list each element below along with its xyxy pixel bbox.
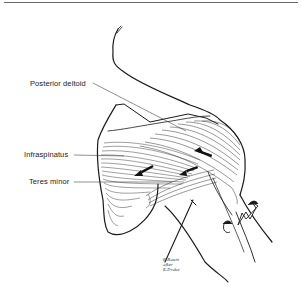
artist-signature: K.Baum after K.Drake (163, 257, 180, 272)
label-infraspinatus: Infraspinatus (24, 150, 68, 159)
signature-line-3: K.Drake (163, 267, 180, 272)
label-posterior-deltoid: Posterior deltoid (30, 79, 86, 88)
label-teres-minor: Teres minor (29, 177, 69, 186)
anatomy-figure: Posterior deltoid Infraspinatus Teres mi… (0, 0, 302, 292)
shoulder-illustration (0, 0, 302, 292)
